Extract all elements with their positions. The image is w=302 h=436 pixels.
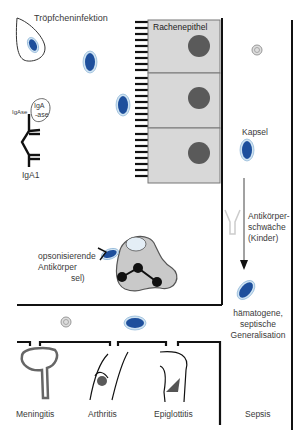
bacterium-icon — [116, 94, 130, 116]
outcome-epiglottitis: Epiglottitis — [154, 409, 193, 419]
outcome-sepsis: Sepsis — [245, 409, 271, 419]
cilia-membrane — [135, 22, 148, 176]
label-pharyngeal-epithelium: Rachenepithel — [153, 22, 207, 32]
joint-icon — [90, 352, 128, 400]
virus-particle-icon — [252, 45, 262, 55]
label-opsonizing-2: Antikörper — [38, 262, 77, 272]
bacterium-icon — [83, 51, 97, 73]
label-igase: IgAse — [12, 107, 27, 117]
label-hematogenous-1: hämatogene, — [224, 308, 292, 318]
epiglottis-icon — [160, 352, 187, 402]
opsonized-bacterium-icon — [98, 246, 120, 262]
bacterium-icon — [234, 277, 259, 303]
outcome-arthritis: Arthritis — [88, 409, 117, 419]
label-antibody-deficiency-2: schwäche — [248, 222, 286, 232]
label-iga-ase-2: -ase — [35, 110, 49, 120]
label-capsule: Kapsel — [242, 127, 268, 137]
label-iga1: IgA1 — [22, 170, 40, 180]
virus-particle-icon — [61, 317, 71, 327]
label-opsonizing-1: opsonisierende — [38, 251, 96, 261]
label-antibody-deficiency-3: (Kinder) — [248, 233, 278, 243]
macrophage-icon — [116, 236, 176, 290]
label-hematogenous-3: Generalisation — [224, 330, 292, 340]
arrow-down-icon — [240, 260, 248, 270]
brain-icon — [22, 348, 57, 398]
epithelial-cells — [148, 20, 220, 183]
label-opsonizing-3: sel) — [71, 273, 85, 283]
bacterium-icon — [124, 316, 146, 330]
label-droplet-infection: Tröpfcheninfektion — [34, 13, 108, 23]
label-hematogenous-2: septische — [224, 319, 292, 329]
label-antibody-deficiency-1: Antikörper- — [248, 211, 290, 221]
antibody-y-icon — [225, 210, 240, 234]
outcome-meningitis: Meningitis — [16, 409, 54, 419]
bacterium-icon — [240, 139, 254, 161]
